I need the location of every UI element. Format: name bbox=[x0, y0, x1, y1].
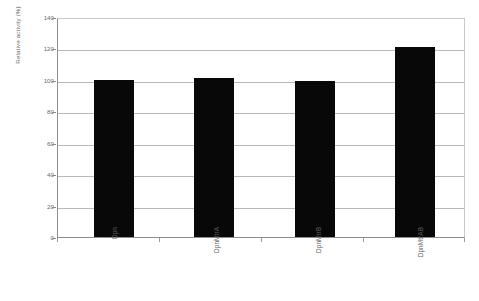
y-tick-mark bbox=[52, 81, 56, 82]
x-category-label-0: Dpn bbox=[110, 227, 120, 297]
x-category-label-3: DpnMtrAB bbox=[416, 227, 426, 297]
x-category-label-2: DpnMtrB bbox=[314, 227, 324, 297]
x-axis-category-labels: Dpn DpnMtrA DpnMtrB DpnMtrAB bbox=[57, 242, 465, 301]
plot-area bbox=[57, 18, 465, 238]
bar bbox=[395, 47, 435, 237]
y-tick-mark bbox=[52, 18, 56, 19]
bar bbox=[94, 80, 134, 237]
y-tick-mark bbox=[52, 207, 56, 208]
y-axis-tick-marks bbox=[0, 18, 57, 238]
y-tick-mark bbox=[52, 238, 56, 239]
bar bbox=[194, 78, 234, 237]
y-tick-mark bbox=[52, 49, 56, 50]
bar-chart-figure: Relative activity (%) 0 20 40 60 80 100 … bbox=[0, 0, 479, 301]
y-tick-mark bbox=[52, 175, 56, 176]
x-category-label-1: DpnMtrA bbox=[212, 227, 222, 297]
y-tick-mark bbox=[52, 112, 56, 113]
y-tick-mark bbox=[52, 144, 56, 145]
bar bbox=[295, 81, 335, 237]
